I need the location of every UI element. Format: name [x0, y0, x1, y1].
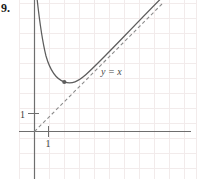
asymptote-line-y-equals-x — [35, 4, 163, 132]
function-curve — [37, 0, 162, 83]
graph-plot: 1 1 y = x — [0, 0, 201, 179]
x-axis-tick-label: 1 — [46, 138, 51, 149]
asymptote-label: y = x — [100, 66, 122, 77]
y-axis-tick-label: 1 — [20, 109, 25, 120]
figure-container: 9. — [0, 0, 201, 179]
minimum-point-marker — [62, 80, 66, 84]
grid-vertical-lines — [20, 0, 197, 179]
